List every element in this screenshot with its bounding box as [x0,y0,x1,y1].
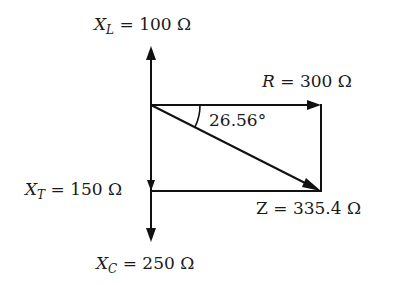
angle-arc [195,105,200,127]
phasor-diagram: XL = 100 Ω R = 300 Ω 26.56° XT = 150 Ω Z… [0,0,393,285]
z-arrowhead [302,178,321,191]
z-label: Z = 335.4 Ω [256,198,361,218]
r-arrowhead [307,100,321,110]
r-label: R = 300 Ω [261,71,352,91]
xl-label: XL = 100 Ω [92,14,191,37]
xc-arrowhead [146,228,156,242]
xt-arrowhead [147,180,155,191]
angle-label: 26.56° [209,110,266,130]
xc-label: XC = 250 Ω [94,253,194,276]
xl-arrowhead [146,46,156,60]
xt-label: XT = 150 Ω [23,179,122,202]
